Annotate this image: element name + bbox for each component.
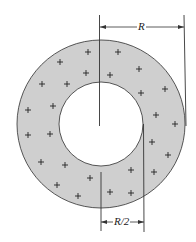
label-outer-radius: R <box>137 21 146 32</box>
outer-extension-line <box>184 15 186 126</box>
arrowhead-right <box>178 25 184 29</box>
arrowhead-left-small <box>101 220 107 224</box>
annulus-diagram <box>0 0 196 242</box>
label-inner-radius: R/2 <box>113 216 130 227</box>
arrowhead-left <box>100 25 106 29</box>
arrowhead-right-small <box>138 220 144 224</box>
inner-extension-line <box>144 124 145 232</box>
